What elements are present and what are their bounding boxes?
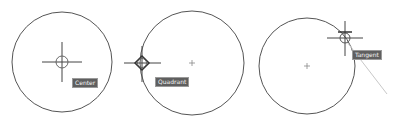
- snap-diagram: [0, 0, 401, 123]
- snap-label-tangent: Tangent: [352, 50, 382, 60]
- center-point-icon: [304, 63, 310, 69]
- panel-quadrant: [124, 11, 244, 115]
- panel-center: [12, 12, 112, 112]
- panel-tangent: [259, 18, 387, 114]
- center-point-icon: [189, 60, 195, 66]
- snap-label-quadrant: Quadrant: [155, 77, 189, 87]
- snap-label-center: Center: [72, 78, 98, 88]
- center-snap-marker-icon: [42, 42, 82, 82]
